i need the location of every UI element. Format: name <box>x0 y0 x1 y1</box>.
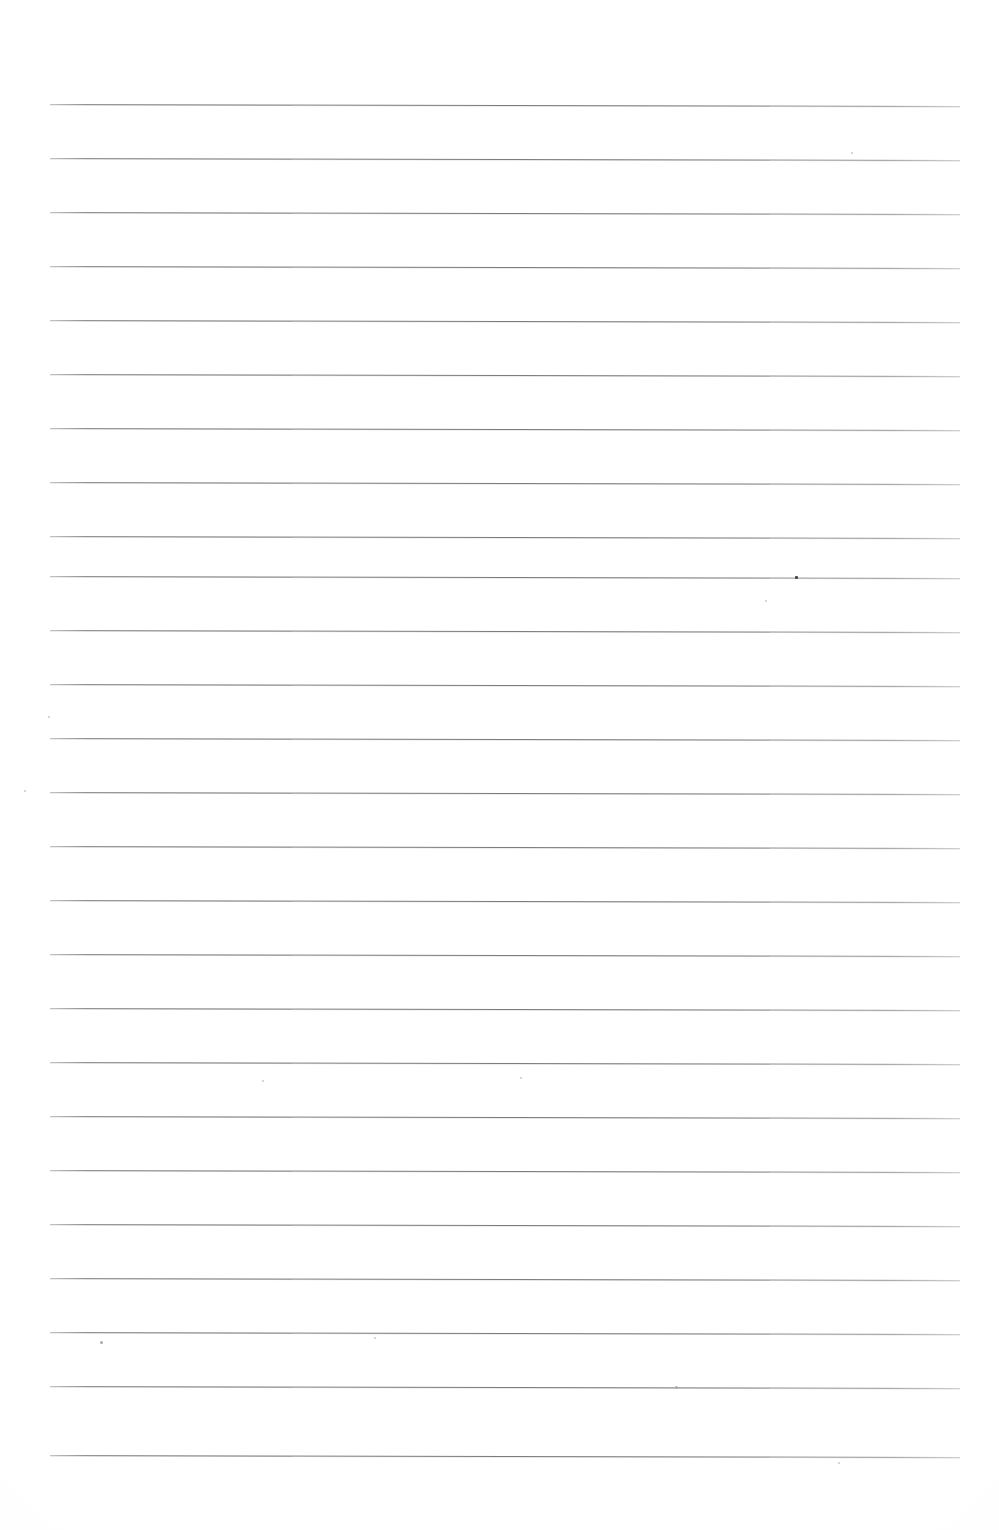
speck-left-margin-icon <box>48 716 50 718</box>
rule-line <box>50 684 960 687</box>
speck-dark-on-line-icon <box>795 576 798 579</box>
rule-line <box>50 104 960 107</box>
rule-line <box>50 1170 960 1173</box>
rule-line <box>50 212 960 215</box>
speck-bottom-left-icon <box>100 1341 103 1344</box>
rule-line <box>50 576 960 579</box>
rule-line <box>50 846 960 849</box>
speck-center-lower-icon <box>262 1080 264 1082</box>
rule-line <box>50 320 960 323</box>
rule-line <box>50 792 960 795</box>
rule-line <box>50 900 960 903</box>
speck-bottom-center-icon <box>675 1386 678 1389</box>
speck-center-lower-b-icon <box>520 1077 522 1079</box>
paper-surface <box>0 0 999 1530</box>
rule-line <box>50 1062 960 1065</box>
speck-top-right-icon <box>851 152 853 154</box>
rule-line <box>50 1332 960 1335</box>
rule-line <box>50 266 960 269</box>
rule-line <box>50 1008 960 1011</box>
rule-line <box>50 1386 960 1389</box>
rule-line <box>50 954 960 957</box>
rule-line <box>50 374 960 377</box>
rule-line <box>50 428 960 431</box>
rule-line <box>50 1278 960 1281</box>
rule-line <box>50 1224 960 1227</box>
speck-left-edge-mid-icon <box>24 790 26 792</box>
rule-line <box>50 536 960 539</box>
rule-line <box>50 1455 960 1458</box>
rule-line <box>50 630 960 633</box>
speck-bottom-right-icon <box>838 1462 840 1464</box>
rule-line <box>50 1116 960 1119</box>
rule-line <box>50 738 960 741</box>
scanned-page <box>0 0 999 1530</box>
rule-line <box>50 158 960 161</box>
rule-line <box>50 482 960 485</box>
speck-below-line-right-icon <box>765 600 767 602</box>
speck-bottom-mid-icon <box>374 1337 376 1339</box>
